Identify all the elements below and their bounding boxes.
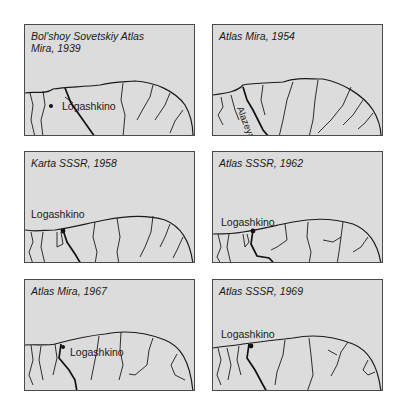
place-label-logashkino: Logashkino [221,328,275,340]
place-label-logashkino: Logashkino [221,216,275,228]
place-label-logashkino: Logashkino [62,100,116,112]
map-panel-1969: Atlas SSSR, 1969 Logashkino [212,279,383,391]
map-panel-1954: Atlas Mira, 1954 Alazeya R. [212,24,383,136]
map-panel-1962: Atlas SSSR, 1962 Logashkino [212,151,383,263]
place-label-logashkino: Logashkino [31,208,85,220]
coastline-map [213,152,383,263]
coastline-map [25,25,195,136]
map-panel-1939: Bol'shoy Sovetskiy Atlas Mira, 1939 Loga… [24,24,195,136]
coastline-map [25,280,195,391]
map-panel-1967: Atlas Mira, 1967 Logashkino [24,279,195,391]
map-panel-1958: Karta SSSR, 1958 Logashkino [24,151,195,263]
place-label-logashkino: Logashkino [70,346,124,358]
